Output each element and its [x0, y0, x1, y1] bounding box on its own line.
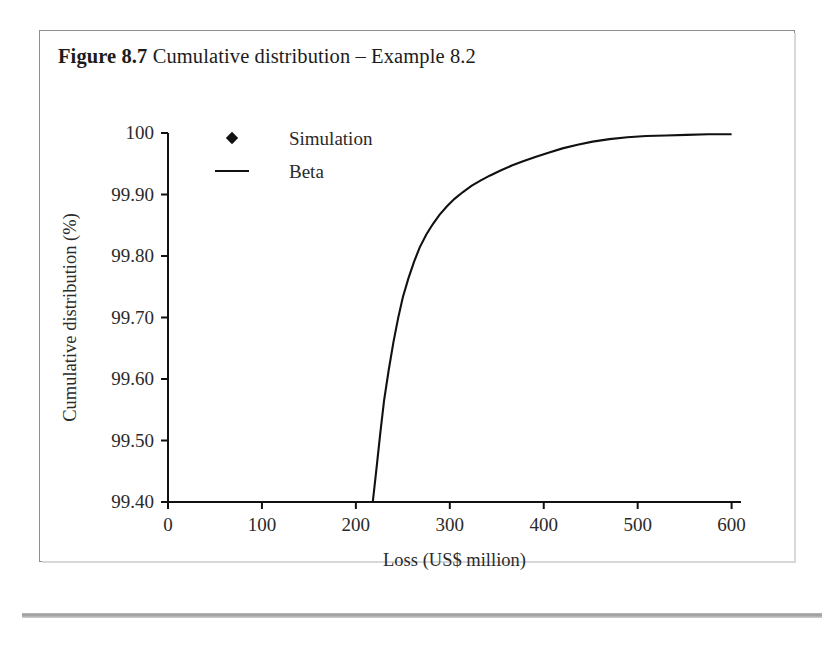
page-divider-rule: [22, 613, 822, 618]
figure-caption: Figure 8.7 Cumulative distribution – Exa…: [58, 45, 476, 68]
figure-frame: [39, 30, 795, 562]
figure-caption-text: Cumulative distribution – Example 8.2: [153, 45, 476, 67]
figure-page: Figure 8.7 Cumulative distribution – Exa…: [0, 0, 836, 648]
figure-caption-number: Figure 8.7: [58, 45, 147, 67]
